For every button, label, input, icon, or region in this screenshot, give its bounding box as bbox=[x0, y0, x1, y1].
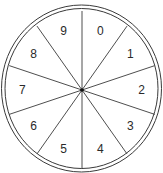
sector-label-4: 4 bbox=[97, 142, 104, 156]
spinner-diagram: 0123456789 bbox=[0, 0, 163, 173]
sector-label-7: 7 bbox=[19, 83, 26, 97]
center-pin bbox=[80, 88, 84, 92]
sector-label-5: 5 bbox=[60, 142, 67, 156]
sector-label-0: 0 bbox=[97, 24, 104, 38]
sector-label-8: 8 bbox=[30, 47, 37, 61]
sector-divider bbox=[82, 90, 127, 154]
sector-label-9: 9 bbox=[60, 24, 67, 38]
sector-label-3: 3 bbox=[127, 119, 134, 133]
sector-label-2: 2 bbox=[138, 83, 145, 97]
sector-label-6: 6 bbox=[30, 119, 37, 133]
sector-divider bbox=[82, 26, 127, 90]
sector-label-1: 1 bbox=[127, 47, 134, 61]
